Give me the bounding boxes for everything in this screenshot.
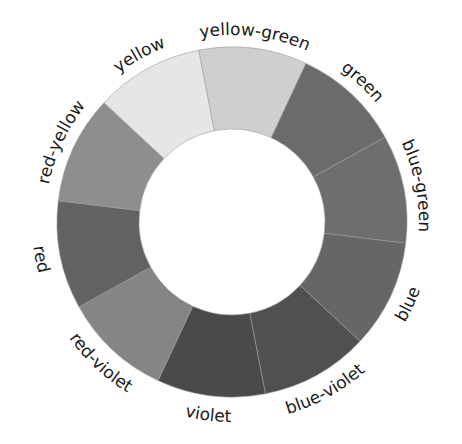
color-wheel-diagram: yellow-greengreenblue-greenblueblue-viol… (0, 0, 462, 444)
label-blue: blue (391, 284, 424, 325)
wheel-segments (57, 47, 407, 397)
label-red: red (30, 244, 55, 275)
label-violet: violet (184, 401, 232, 426)
